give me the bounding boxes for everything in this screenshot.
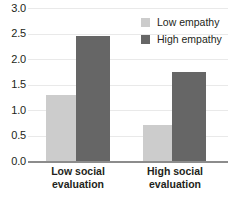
bar-chart: 3.0 2.5 2.0 1.5 1.0 0.5 0.0 Low social e…	[0, 0, 235, 199]
bar-low-empathy-low-social	[46, 95, 76, 161]
bar-low-empathy-high-social	[143, 125, 172, 161]
y-tick-label: 0.5	[2, 130, 26, 141]
y-tick-label: 1.0	[2, 105, 26, 116]
y-tick-label: 2.0	[2, 54, 26, 65]
x-axis-line	[28, 161, 228, 163]
legend: Low empathy High empathy	[141, 15, 233, 49]
y-tick-label: 3.0	[2, 3, 26, 14]
legend-swatch-icon	[141, 18, 150, 27]
gridline	[28, 59, 228, 60]
legend-label: High empathy	[157, 34, 222, 45]
x-category-line-2: evaluation	[30, 178, 126, 191]
y-tick-label: 1.5	[2, 79, 26, 90]
x-category-label-high-social: High social evaluation	[127, 165, 223, 190]
x-category-line-1: High social	[147, 165, 203, 177]
gridline	[28, 8, 228, 9]
x-category-label-low-social: Low social evaluation	[30, 165, 126, 190]
legend-item-low-empathy: Low empathy	[141, 15, 233, 30]
legend-item-high-empathy: High empathy	[141, 32, 233, 47]
bar-high-empathy-low-social	[76, 36, 110, 161]
y-tick-label: 2.5	[2, 28, 26, 39]
y-tick-label: 0.0	[2, 156, 26, 167]
bar-high-empathy-high-social	[172, 72, 206, 161]
x-category-line-1: Low social	[51, 165, 105, 177]
x-category-line-2: evaluation	[127, 178, 223, 191]
y-axis: 3.0 2.5 2.0 1.5 1.0 0.5 0.0	[0, 0, 26, 199]
x-axis: Low social evaluation High social evalua…	[28, 165, 228, 199]
legend-label: Low empathy	[157, 17, 219, 28]
legend-swatch-icon	[141, 35, 150, 44]
